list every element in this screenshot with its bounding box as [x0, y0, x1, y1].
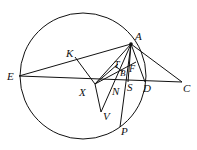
label-C: C [183, 82, 191, 94]
segment-KX [75, 57, 95, 84]
segment-XV [95, 84, 101, 112]
diagram-canvas: A E C D K X V P T B F N S [0, 0, 197, 150]
label-B: B [120, 68, 126, 78]
label-D: D [142, 82, 151, 94]
label-E: E [6, 70, 14, 82]
label-F: F [128, 63, 136, 74]
label-K: K [65, 47, 74, 59]
point-A [129, 42, 133, 46]
geometry-diagram: A E C D K X V P T B F N S [0, 0, 197, 150]
label-X: X [78, 86, 87, 98]
label-S: S [127, 81, 133, 93]
label-V: V [103, 110, 111, 122]
label-N: N [111, 85, 120, 97]
label-P: P [120, 125, 128, 137]
segment-AC [131, 44, 182, 82]
label-A: A [134, 30, 142, 42]
segment-AX [95, 44, 131, 84]
